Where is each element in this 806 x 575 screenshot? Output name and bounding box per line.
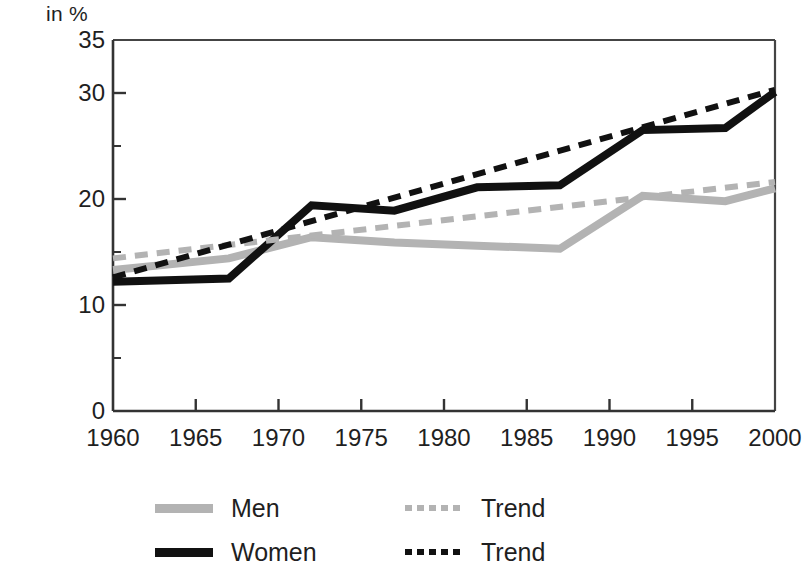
legend-swatch-women-trend-line	[405, 548, 463, 557]
x-axis-tick-label: 2000	[720, 424, 806, 452]
legend-entry-women: Women	[155, 530, 317, 574]
axes	[113, 40, 775, 411]
chart-legend: Men Trend Women Trend	[0, 486, 794, 574]
legend-swatch-men-line	[155, 504, 213, 513]
legend-label-men-trend: Trend	[481, 494, 545, 523]
legend-label-women-trend: Trend	[481, 538, 545, 567]
legend-swatch-men-trend-line	[405, 504, 463, 513]
data-series-layer	[113, 90, 775, 282]
y-axis-tick-label: 0	[35, 397, 105, 425]
y-axis-tick-label: 10	[35, 291, 105, 319]
legend-row: Men Trend	[0, 486, 794, 530]
legend-entry-men: Men	[155, 486, 280, 530]
y-axis-tick-label: 20	[35, 185, 105, 213]
legend-label-women: Women	[231, 538, 317, 567]
y-axis-tick-label: 30	[35, 79, 105, 107]
legend-label-men: Men	[231, 494, 280, 523]
legend-swatch-women-line	[155, 548, 213, 557]
legend-row: Women Trend	[0, 530, 794, 574]
legend-entry-men-trend: Trend	[405, 486, 545, 530]
legend-entry-women-trend: Trend	[405, 530, 545, 574]
y-axis-tick-label: 35	[35, 26, 105, 54]
